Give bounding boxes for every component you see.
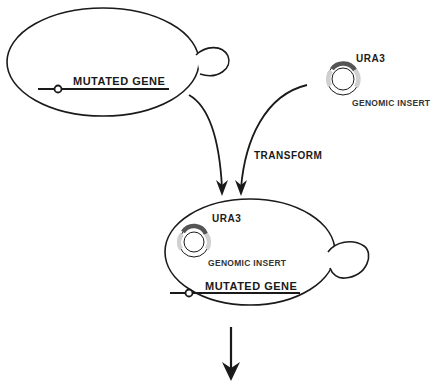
bud-icon [196,48,229,76]
plasmid-in-cell [179,226,209,257]
transform-label: TRANSFORM [254,150,322,161]
insert-segment-icon [206,234,209,249]
mutation-marker-icon [55,86,62,93]
diagram-canvas: MUTATED GENE URA3 GENOMIC INSERT TRANSFO… [0,0,438,391]
ura3-segment-icon [332,63,355,70]
bud-icon [328,242,369,278]
genomic-insert-label: GENOMIC INSERT [352,98,430,108]
ura3-label: URA3 [212,213,241,224]
mutated-gene-label: MUTATED GENE [205,280,297,292]
ura3-label: URA3 [356,53,385,64]
arrow-mutant-to-transformed [189,95,222,188]
insert-segment-icon [355,70,358,87]
mutated-gene-label: MUTATED GENE [73,75,165,87]
ura3-segment-icon [183,226,206,234]
plasmid [327,63,359,95]
mutation-marker-icon [186,290,193,297]
genomic-insert-label: GENOMIC INSERT [208,258,286,268]
arrow-plasmid-to-transformed [241,85,307,188]
